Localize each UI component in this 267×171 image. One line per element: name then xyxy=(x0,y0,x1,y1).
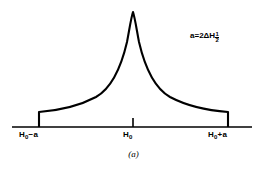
resonance-lineshape-figure: H0−a H0 H0+a a=2ΔH12 (a) xyxy=(0,0,267,171)
tick-left-suffix: −a xyxy=(29,130,39,139)
fraction-denominator: 2 xyxy=(215,38,219,43)
tick-left-subscript: 0 xyxy=(25,134,29,140)
formula-half-fraction: 12 xyxy=(215,32,219,44)
tick-right-suffix: +a xyxy=(218,130,228,139)
figure-caption: (a) xyxy=(0,149,267,159)
axis-tick-label-left: H0−a xyxy=(19,130,38,139)
tick-right-subscript: 0 xyxy=(214,134,218,140)
axis-tick-label-center: H0 xyxy=(123,130,133,139)
tick-center-subscript: 0 xyxy=(129,134,133,140)
linewidth-formula-annotation: a=2ΔH12 xyxy=(190,28,219,40)
plot-canvas xyxy=(0,0,267,171)
axis-tick-label-right: H0+a xyxy=(208,130,227,139)
